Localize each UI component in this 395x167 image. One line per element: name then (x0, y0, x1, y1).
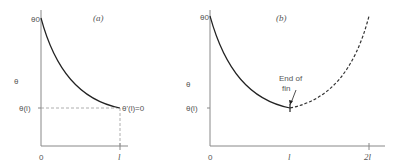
panel-a-tag: (a) (93, 13, 104, 23)
panel-a: θ0 (a) θ θ(l) θ'(l)=0 0 l (14, 10, 145, 162)
panel-b-solid-curve (210, 16, 290, 108)
panel-b-x-end-label: 2l (364, 152, 372, 162)
panel-a-x-origin-label: 0 (39, 153, 44, 162)
panel-b-annotation-line2: fin (282, 84, 290, 93)
panel-b-x-origin-label: 0 (208, 153, 213, 162)
panel-a-temperature-curve (41, 18, 120, 108)
panel-a-theta-l-label: θ(l) (19, 104, 31, 113)
panel-b-dashed-curve (290, 16, 369, 108)
panel-b: θ0 (b) θ θ(l) End of fin 0 l 2l (186, 10, 385, 162)
panel-a-x-end-label: l (118, 152, 121, 162)
panel-b-annotation-line1: End of (279, 74, 303, 83)
fin-temperature-diagram: θ0 (a) θ θ(l) θ'(l)=0 0 l θ0 (b) θ θ(l) … (0, 0, 395, 167)
panel-b-tag: (b) (276, 13, 287, 23)
panel-b-theta-l-label: θ(l) (186, 104, 198, 113)
panel-a-theta0-label: θ0 (31, 15, 40, 24)
panel-b-y-axis-label: θ (186, 80, 191, 89)
panel-b-theta0-label: θ0 (200, 13, 209, 22)
panel-a-end-condition-label: θ'(l)=0 (122, 104, 145, 113)
panel-a-y-axis-label: θ (14, 77, 19, 86)
panel-b-x-mid-label: l (288, 152, 291, 162)
